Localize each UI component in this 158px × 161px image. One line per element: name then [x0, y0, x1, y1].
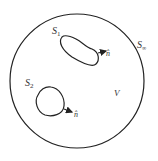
- label-s-infinity: S∞: [137, 39, 146, 51]
- surface-s1-boundary: [60, 36, 98, 66]
- label-s1: S1: [52, 25, 61, 38]
- label-normal-s2: n̂: [74, 110, 78, 119]
- normal-arrow-s1: [98, 51, 106, 53]
- surface-s2-boundary: [36, 87, 64, 116]
- outer-surface-boundary: [10, 14, 144, 148]
- label-normal-s1: n̂: [106, 49, 110, 58]
- normal-arrow-s2: [64, 109, 72, 112]
- label-s2: S2: [25, 77, 34, 90]
- label-volume: V: [114, 88, 121, 98]
- surfaces-diagram: S1 n̂ S2 n̂ S∞ V: [0, 0, 158, 161]
